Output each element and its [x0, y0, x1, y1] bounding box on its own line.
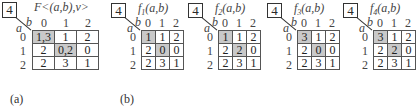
row-header: 2 [201, 58, 213, 73]
col-header: 0 [218, 16, 232, 31]
grid-cell: 2 [142, 44, 156, 57]
grid-cell: 0 [77, 44, 99, 57]
grid-cell: 2 [33, 57, 55, 70]
grid-cell: 1 [402, 57, 416, 70]
col-header: 2 [401, 16, 415, 31]
grid-cell: 2 [247, 31, 261, 44]
grid-cell: 3 [156, 57, 170, 70]
grid-cell: 3 [233, 57, 247, 70]
grid-cell: 2 [298, 44, 312, 57]
grid-cell: 1 [233, 31, 247, 44]
grid-cell: 2 [33, 44, 55, 57]
row-header: 1 [201, 44, 213, 59]
caption-b: (b) [120, 92, 134, 107]
panel-title: f4(a,b) [370, 1, 400, 17]
caption-a: (a) [10, 92, 23, 107]
row-header: 2 [280, 58, 292, 73]
panel-F: 4 F<(a,b),v> b a 0 1 2 0 1 2 1,3 1 2 2 0… [0, 0, 105, 109]
panel-f4: 4 f4(a,b) b a 0 1 2 0 1 2 3 1 2 2 2 0 2 … [341, 0, 419, 109]
grid-cell: 1 [312, 31, 326, 44]
col-header: 1 [387, 16, 401, 31]
grid-cell: 1 [77, 57, 99, 70]
grid-cell: 0 [170, 44, 184, 57]
panel-f3: 4 f3(a,b) b a 0 1 2 0 1 2 3 1 2 2 0 0 2 … [264, 0, 344, 109]
value-grid: 1,3 1 2 2 0,2 0 2 3 1 [32, 30, 99, 70]
value-grid: 1 1 2 2 0 0 2 3 1 [141, 30, 184, 70]
grid-cell-highlighted: 0 [156, 44, 170, 57]
grid-cell: 0 [326, 44, 340, 57]
panel-title: f1(a,b) [138, 1, 168, 17]
grid-cell: 1 [170, 57, 184, 70]
panel-f2: 4 f2(a,b) b a 0 1 2 0 1 2 1 1 2 2 2 0 2 … [185, 0, 265, 109]
grid-cell: 2 [77, 31, 99, 44]
grid-cell-highlighted: 3 [374, 31, 388, 44]
row-header: 0 [14, 30, 26, 45]
grid-cell: 2 [374, 44, 388, 57]
grid-cell: 2 [298, 57, 312, 70]
grid-cell: 2 [326, 31, 340, 44]
grid-cell-highlighted: 1 [219, 31, 233, 44]
grid-cell: 1 [156, 31, 170, 44]
grid-cell-highlighted: 3 [298, 31, 312, 44]
col-header: 2 [77, 16, 99, 31]
col-header: 1 [232, 16, 246, 31]
grid-cell-highlighted: 2 [233, 44, 247, 57]
grid-cell-highlighted: 1 [142, 31, 156, 44]
grid-cell-highlighted: 0,2 [55, 44, 77, 57]
grid-cell: 2 [374, 57, 388, 70]
col-header: 2 [246, 16, 260, 31]
node-4-box: 4 [111, 3, 126, 18]
row-header: 1 [356, 44, 368, 59]
col-axis-label: b [26, 15, 32, 30]
grid-cell-highlighted: 2 [388, 44, 402, 57]
col-header: 0 [141, 16, 155, 31]
value-grid: 3 1 2 2 0 0 2 3 1 [297, 30, 340, 70]
grid-cell: 2 [219, 57, 233, 70]
row-header: 2 [14, 58, 26, 73]
col-header: 2 [325, 16, 339, 31]
row-header: 1 [280, 44, 292, 59]
row-header: 0 [280, 30, 292, 45]
col-header: 0 [297, 16, 311, 31]
row-header: 0 [356, 30, 368, 45]
col-header: 0 [33, 16, 55, 31]
col-header: 1 [311, 16, 325, 31]
grid-cell: 1 [326, 57, 340, 70]
grid-cell: 0 [402, 44, 416, 57]
grid-cell: 3 [388, 57, 402, 70]
row-header: 0 [201, 30, 213, 45]
grid-cell: 2 [170, 31, 184, 44]
row-header: 1 [14, 44, 26, 59]
node-4-box: 4 [343, 3, 358, 18]
value-grid: 1 1 2 2 2 0 2 3 1 [218, 30, 261, 70]
col-header: 1 [155, 16, 169, 31]
row-header: 1 [124, 44, 136, 59]
grid-cell-highlighted: 1,3 [33, 31, 55, 44]
grid-cell: 3 [312, 57, 326, 70]
grid-cell: 1 [55, 31, 77, 44]
panel-f1: 4 f1(a,b) b a 0 1 2 0 1 2 1 1 2 2 0 0 2 … [108, 0, 188, 109]
grid-cell: 1 [247, 57, 261, 70]
col-header: 1 [55, 16, 77, 31]
node-4-box: 4 [188, 3, 203, 18]
grid-cell: 2 [219, 44, 233, 57]
panel-title: f3(a,b) [294, 1, 324, 17]
row-header: 0 [124, 30, 136, 45]
col-header: 0 [373, 16, 387, 31]
value-grid: 3 1 2 2 2 0 2 3 1 [373, 30, 416, 70]
col-header: 2 [169, 16, 183, 31]
grid-cell: 3 [55, 57, 77, 70]
row-header: 2 [124, 58, 136, 73]
panel-title: F<(a,b),v> [34, 0, 89, 15]
grid-cell: 2 [402, 31, 416, 44]
node-4-box: 4 [267, 3, 282, 18]
grid-cell: 1 [388, 31, 402, 44]
row-header: 2 [356, 58, 368, 73]
grid-cell-highlighted: 0 [312, 44, 326, 57]
panel-title: f2(a,b) [215, 1, 245, 17]
grid-cell: 2 [142, 57, 156, 70]
node-4-box: 4 [2, 2, 17, 18]
grid-cell: 0 [247, 44, 261, 57]
